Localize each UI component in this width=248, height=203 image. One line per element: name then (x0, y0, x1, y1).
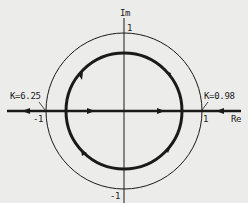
tick-right: 1 (203, 115, 208, 124)
tick-left: -1 (33, 115, 43, 124)
plot-canvas (0, 0, 248, 203)
right-gain-annotation: K=0.98 (204, 92, 235, 101)
root-locus-diagram: Im 1 -1 -1 1 Re K=6.25 K=0.98 (0, 0, 248, 203)
right-gain-leader (202, 102, 208, 110)
imag-axis-label: Im (120, 9, 130, 18)
tick-bottom: -1 (110, 192, 120, 201)
tick-top: 1 (127, 24, 132, 33)
left-gain-annotation: K=6.25 (10, 92, 41, 101)
real-axis-label: Re (231, 115, 241, 124)
left-gain-leader (39, 102, 45, 110)
